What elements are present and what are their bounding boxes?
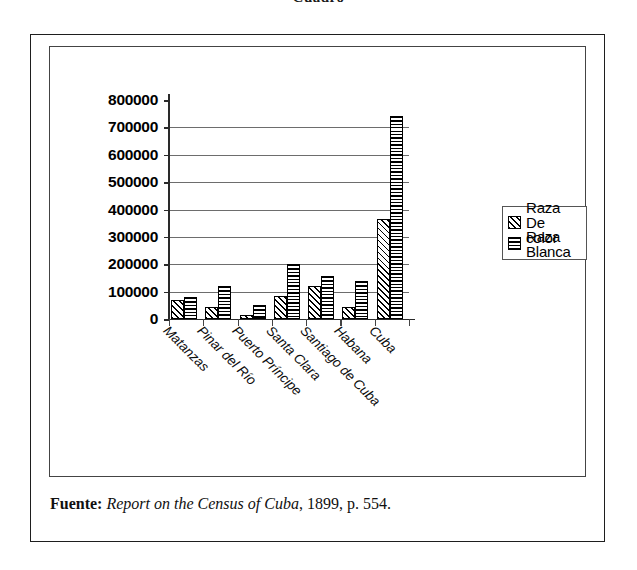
legend-swatch-raza-blanca-icon: [508, 237, 521, 250]
source-work-title: Report on the Census of Cuba: [106, 495, 298, 512]
legend-item: Raza Blanca: [508, 233, 579, 254]
bar: [355, 281, 368, 319]
plot-canvas: [169, 100, 409, 319]
y-axis-tick-label: 100000: [58, 284, 158, 300]
bar-group: [169, 100, 203, 319]
bar-group: [238, 100, 272, 319]
bar-group: [375, 100, 409, 319]
bar: [377, 219, 390, 319]
chart-legend: Raza De color Raza Blanca: [502, 206, 587, 260]
bar-group: [203, 100, 237, 319]
y-axis-tick-label: 800000: [58, 92, 158, 108]
legend-label: Raza Blanca: [526, 229, 579, 259]
bar: [205, 307, 218, 319]
y-axis-tick-label: 300000: [58, 229, 158, 245]
bar: [287, 264, 300, 319]
plot-area: 8000007000006000005000004000003000002000…: [50, 47, 587, 478]
bar-group: [340, 100, 374, 319]
y-axis-tick-labels: 8000007000006000005000004000003000002000…: [58, 47, 158, 478]
bar-groups: [169, 100, 409, 319]
bar: [274, 296, 287, 319]
source-citation-rest: , 1899, p. 554.: [299, 495, 391, 512]
bar: [240, 315, 253, 319]
bar: [308, 286, 321, 319]
source-caption: Fuente: Report on the Census of Cuba, 18…: [50, 495, 570, 513]
y-axis-tick-label: 400000: [58, 202, 158, 218]
y-axis-tick-label: 0: [58, 311, 158, 327]
chart-frame: 8000007000006000005000004000003000002000…: [49, 46, 586, 477]
bar: [171, 300, 184, 319]
bar: [184, 297, 197, 319]
bar: [390, 116, 403, 319]
y-axis-tick-label: 200000: [58, 257, 158, 273]
bar: [218, 286, 231, 319]
bar: [321, 276, 334, 319]
page-title-fragment: Cuadro: [0, 0, 637, 4]
y-axis-tick-label: 700000: [58, 120, 158, 136]
source-label: Fuente:: [50, 495, 102, 512]
bar-group: [306, 100, 340, 319]
page-title-text: Cuadro: [293, 0, 345, 4]
bar: [342, 307, 355, 319]
y-axis-tick-label: 600000: [58, 147, 158, 163]
bar-group: [272, 100, 306, 319]
y-axis-tick-label: 500000: [58, 174, 158, 190]
figure-outer-frame: 8000007000006000005000004000003000002000…: [30, 34, 605, 542]
x-axis-category-labels: MatanzasPinar del RíoPuerto PríncipeSant…: [169, 323, 499, 473]
bar: [253, 305, 266, 320]
legend-swatch-raza-de-color-icon: [508, 216, 521, 229]
